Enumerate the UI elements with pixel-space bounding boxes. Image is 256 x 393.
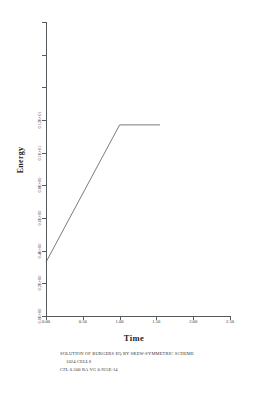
x-tick-label-1: 0.50 [79, 320, 87, 325]
x-tick-label-4: 2.00 [189, 320, 197, 325]
y-tick-label-4: 0.8E+00 [38, 178, 42, 193]
caption-line-cfl: CFL 0.500 RA VG 0.925E-14 [60, 366, 250, 374]
y-tick-label-5: 0.1E+01 [38, 145, 42, 160]
y-tick-label-3: 0.6E+00 [38, 210, 42, 225]
caption-block: SOLUTION OF BURGERS EQ BY SKEW-SYMMETRIC… [60, 350, 250, 374]
caption-line-cells: 1024 CELLS [60, 358, 250, 366]
y-tick-label-2: 0.4E+00 [38, 243, 42, 258]
y-tick-label-6: 0.12E+01 [38, 111, 42, 128]
data-series-energy [46, 22, 230, 316]
plot-area: 0.0E+000.2E+000.4E+000.6E+000.8E+000.1E+… [46, 22, 230, 316]
x-tick-label-2: 1.00 [116, 320, 124, 325]
y-axis-title: Energy [16, 147, 25, 174]
series-line-energy [46, 125, 160, 262]
x-tick-label-5: 2.50 [226, 320, 234, 325]
x-axis-title: Time [124, 333, 144, 343]
figure-canvas: Energy Time 0.0E+000.2E+000.4E+000.6E+00… [0, 0, 256, 393]
x-axis-line [46, 316, 230, 317]
x-tick-label-3: 1.50 [152, 320, 160, 325]
x-tick-label-0: 0.00 [42, 320, 50, 325]
caption-line-title: SOLUTION OF BURGERS EQ BY SKEW-SYMMETRIC… [60, 350, 250, 358]
y-tick-label-1: 0.2E+00 [38, 276, 42, 291]
